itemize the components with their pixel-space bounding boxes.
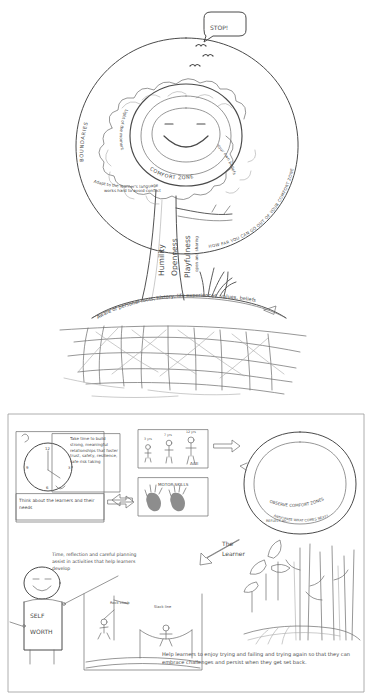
clock-icon: 12 3 6 9 — [22, 434, 72, 491]
self-label: SELF — [30, 612, 45, 619]
trunk-word-openness: Openness — [170, 238, 179, 276]
sketch-sheet: STOP! — [0, 0, 372, 700]
age-item-2: 12 yrs — [186, 430, 196, 434]
comfort-zone-rings — [130, 84, 242, 186]
smiley-face-icon — [152, 108, 220, 162]
trunk-word-small: open and sharing — [194, 236, 199, 272]
cloud-label-1: Light of the moment — [119, 109, 130, 151]
age-figures: 3 yrs 7 yrs 12 yrs AGE — [144, 430, 199, 466]
clock-12: 12 — [45, 446, 50, 451]
learner-plants — [244, 540, 360, 644]
arrow-right-1 — [214, 440, 240, 452]
cloud-label-4: works hard to avoid conflict — [104, 188, 161, 193]
outer-ring-left-label: BOUNDARIES — [78, 121, 89, 162]
worth-label: WORTH — [30, 628, 53, 635]
trunk-words: Humility Openness Playfulness open and s… — [157, 235, 199, 278]
root-system — [60, 326, 306, 398]
motor-skills-label: MOTOR SKILLS — [158, 482, 189, 487]
roots-banner-text: Aware of personal roots, history, life e… — [95, 292, 257, 320]
outer-ring-right-label: HOW FAR YOU CAN GO OUT OF YOUR COMFORT Z… — [208, 167, 294, 248]
birds-icon — [190, 45, 213, 67]
clock-note-text: Take time to build strong, meaningful re… — [70, 436, 120, 465]
trunk-word-playfulness: Playfulness — [183, 235, 192, 278]
closing-note-text: Help learners to enjoy trying and failin… — [162, 650, 362, 666]
motor-skills-box: MOTOR SKILLS — [138, 478, 208, 516]
age-panel-label: AGE — [190, 461, 199, 466]
clock-caption-text: Think about the learners and their needs — [19, 498, 103, 511]
loop-label-primary: OBSERVE COMFORT ZONES — [269, 496, 325, 508]
speech-bubble-text: STOP! — [210, 24, 228, 31]
learner-title-line1: The — [221, 540, 233, 547]
drawing-canvas: STOP! — [0, 0, 372, 700]
grass-tuft — [200, 268, 236, 296]
planning-note-text: Time, reflection and careful planning as… — [52, 552, 144, 573]
cloud-label-2: Your own beliefs — [215, 143, 237, 176]
clock-9: 9 — [26, 465, 29, 470]
trunk-word-humility: Humility — [157, 244, 166, 276]
age-item-0: 3 yrs — [144, 437, 152, 441]
age-item-1: 7 yrs — [164, 433, 172, 437]
activity-label-0: Rock climb — [110, 601, 130, 605]
learner-title-line2: Learner — [222, 550, 245, 557]
clock-6: 6 — [46, 485, 49, 490]
activity-label-1: Slack line — [154, 605, 172, 609]
